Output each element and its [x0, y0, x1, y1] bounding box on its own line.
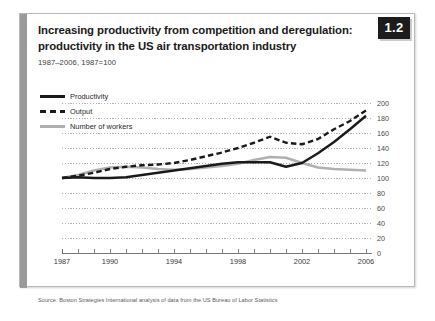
y-axis-tick-label: 40 — [377, 219, 385, 228]
legend-item-workers: Number of workers — [40, 120, 132, 133]
y-axis-tick-label: 0 — [377, 249, 381, 258]
figure-title: Increasing productivity from competition… — [38, 23, 368, 54]
y-axis-tick-label: 160 — [377, 129, 389, 138]
x-axis-tick-label: 2006 — [358, 257, 374, 266]
legend-label-workers: Number of workers — [70, 122, 132, 131]
series-line-number-of-workers — [62, 157, 366, 178]
x-axis-tick-label: 1990 — [102, 257, 118, 266]
x-axis-tick-label: 1994 — [166, 257, 182, 266]
y-axis-tick-label: 100 — [377, 174, 389, 183]
legend-swatch-productivity-icon — [40, 95, 65, 98]
y-axis-tick-label: 80 — [377, 189, 385, 198]
left-accent-bar — [20, 14, 27, 288]
y-axis-tick-label: 20 — [377, 234, 385, 243]
figure-subtitle: 1987–2006, 1987=100 — [38, 58, 116, 67]
figure-number-badge: 1.2 — [378, 17, 410, 39]
figure-page: 1.2 Increasing productivity from competi… — [0, 0, 435, 321]
y-axis-tick-label: 180 — [377, 114, 389, 123]
figure-source-note: Source: Boston Strategies International … — [38, 297, 278, 303]
legend-swatch-output-icon — [40, 110, 65, 113]
chart-legend: Productivity Output Number of workers — [40, 90, 132, 135]
x-axis-tick-label: 1987 — [54, 257, 70, 266]
legend-label-productivity: Productivity — [70, 92, 108, 101]
y-axis-tick-label: 60 — [377, 204, 385, 213]
y-axis-tick-label: 140 — [377, 144, 389, 153]
x-axis-tick-label: 2002 — [294, 257, 310, 266]
legend-item-productivity: Productivity — [40, 90, 132, 103]
y-axis-tick-label: 120 — [377, 159, 389, 168]
figure-card: 1.2 Increasing productivity from competi… — [19, 13, 415, 287]
legend-swatch-workers-icon — [40, 125, 65, 128]
y-axis-tick-label: 200 — [377, 99, 389, 108]
x-axis-tick-label: 1998 — [230, 257, 246, 266]
legend-item-output: Output — [40, 105, 132, 118]
legend-label-output: Output — [70, 107, 92, 116]
